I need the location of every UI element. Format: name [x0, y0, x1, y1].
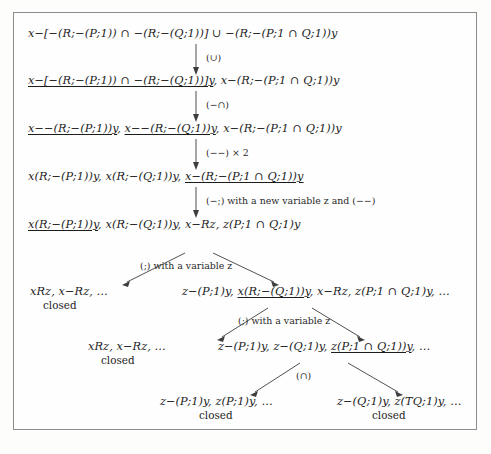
node-level5-part-1: , x(R;−(Q;1))y, x−Rz, z(P;1 ∩ Q;1)y: [98, 218, 301, 231]
edge-label-double-neg: (−−) × 2: [206, 147, 249, 158]
node-level3-part-0: x−−(R;−(P;1))y: [28, 122, 117, 135]
status-closed-branch1-left: closed: [43, 299, 77, 311]
node-branch1-right-part-1: x(R;−(Q;1))y: [238, 285, 310, 298]
node-branch2-right-part-0: z−(P;1)y, z−(Q;1)y,: [218, 340, 331, 353]
node-branch1-right-part-0: z−(P;1)y,: [182, 285, 238, 298]
tableau-node-branch2-left: xRz, x−Rz, …: [88, 340, 166, 353]
tableau-node-level2: x−[−(R;−(P;1)) ∩ −(R;−(Q;1))]y, x−(R;−(P…: [28, 74, 339, 87]
node-branch3-left-part-0: z−(P;1)y, z(P;1)y, …: [160, 395, 273, 408]
status-closed-branch3-right: closed: [372, 409, 406, 421]
tableau-node-branch1-right: z−(P;1)y, x(R;−(Q;1))y, x−Rz, z(P;1 ∩ Q;…: [182, 285, 450, 298]
tableau-node-branch2-right: z−(P;1)y, z−(Q;1)y, z(P;1 ∩ Q;1))y, …: [218, 340, 430, 353]
node-level2-part-1: , x−(R;−(P;1 ∩ Q;1))y: [213, 74, 339, 87]
tableau-node-branch1-left: xRz, x−Rz, …: [30, 285, 108, 298]
node-level3-part-3: , x−(R;−(P;1 ∩ Q;1))y: [216, 122, 342, 135]
edge-label-neg-comp: (−;) with a new variable z and (−−): [206, 195, 375, 206]
node-branch2-left-part-0: xRz, x−Rz, …: [88, 340, 166, 353]
node-level4-part-1: x−(R;−(P;1 ∩ Q;1))y: [185, 170, 304, 183]
edge-label-comp-2: (;) with a variable z: [238, 315, 330, 326]
node-level3-part-1: ,: [117, 122, 124, 135]
node-branch1-left-part-0: xRz, x−Rz, …: [30, 285, 108, 298]
edge-label-neg-inter: (−∩): [206, 99, 229, 110]
tableau-node-branch3-left: z−(P;1)y, z(P;1)y, …: [160, 395, 273, 408]
edge-label-neg-comp-text: (−;) with a new variable z and (−−): [206, 195, 375, 206]
status-closed-branch3-left: closed: [199, 409, 233, 421]
node-level2-part-0: x−[−(R;−(P;1)) ∩ −(R;−(Q;1))]y: [28, 74, 213, 87]
node-level4-part-0: x(R;−(P;1))y, x(R;−(Q;1))y,: [28, 170, 185, 183]
edge-label-inter: (∩): [296, 370, 311, 381]
tableau-node-root: x−[−(R;−(P;1)) ∩ −(R;−(Q;1))] ∪ −(R;−(P;…: [28, 27, 338, 40]
status-closed-branch2-left: closed: [101, 354, 135, 366]
tableau-node-level4: x(R;−(P;1))y, x(R;−(Q;1))y, x−(R;−(P;1 ∩…: [28, 170, 304, 183]
tableau-node-level3: x−−(R;−(P;1))y, x−−(R;−(Q;1))y, x−(R;−(P…: [28, 122, 342, 135]
node-branch2-right-part-2: , …: [412, 340, 431, 353]
tableau-node-branch3-right: z−(Q;1)y, z(TQ;1)y, …: [337, 395, 462, 408]
edge-label-union: (∪): [206, 52, 221, 63]
edge-label-comp-1: (;) with a variable z: [140, 260, 232, 271]
node-level3-part-2: x−−(R;−(Q;1))y: [125, 122, 216, 135]
node-level5-part-0: x(R;−(P;1))y: [28, 218, 98, 231]
tableau-node-level5: x(R;−(P;1))y, x(R;−(Q;1))y, x−Rz, z(P;1 …: [28, 218, 301, 231]
node-branch2-right-part-1: z(P;1 ∩ Q;1))y: [331, 340, 412, 353]
node-branch3-right-part-0: z−(Q;1)y, z(TQ;1)y, …: [337, 395, 462, 408]
proof-tree-page: x−[−(R;−(P;1)) ∩ −(R;−(Q;1))] ∪ −(R;−(P;…: [0, 0, 491, 454]
node-root-part-0: x−[−(R;−(P;1)) ∩ −(R;−(Q;1))] ∪ −(R;−(P;…: [28, 27, 338, 40]
node-branch1-right-part-2: , x−Rz, z(P;1 ∩ Q;1)y, …: [310, 285, 450, 298]
